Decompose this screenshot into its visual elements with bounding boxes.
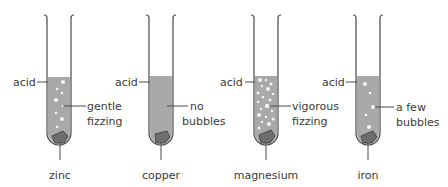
observation-label-line1: a few	[396, 101, 426, 114]
observation-label-line2: fizzing	[292, 115, 328, 128]
acid-label: acid	[220, 76, 243, 89]
test-tube-copper: acid no bubbles copper	[115, 15, 226, 182]
test-tube-magnesium: acid vigorous fizzing magnesium	[220, 15, 339, 182]
acid-label: acid	[13, 76, 36, 89]
test-tube-iron: acid a few bubbles iron	[322, 15, 440, 182]
observation-label-line1: no	[190, 100, 204, 113]
observation-label-line2: bubbles	[182, 115, 226, 128]
acid-label: acid	[115, 76, 138, 89]
acid-label: acid	[322, 76, 345, 89]
test-tube-zinc: acid gentle fizzing zinc	[13, 15, 123, 182]
metal-label: magnesium	[234, 169, 299, 182]
observation-label-line2: bubbles	[396, 116, 440, 129]
metal-acid-reactions-diagram: acid gentle fizzing zinc acid no bubbles…	[0, 0, 448, 187]
metal-label: zinc	[49, 169, 71, 182]
observation-label-line1: gentle	[87, 100, 122, 113]
observation-label-line2: fizzing	[87, 115, 123, 128]
metal-label: iron	[357, 169, 378, 182]
observation-label-line1: vigorous	[292, 100, 339, 113]
metal-label: copper	[142, 169, 181, 182]
